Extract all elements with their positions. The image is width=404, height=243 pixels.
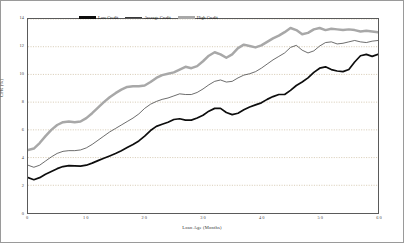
y-axis-tick-label: 12 <box>20 44 24 48</box>
y-axis-tick-label: 8 <box>22 100 24 104</box>
y-axis-tick-labels: 02468101214 <box>9 18 24 214</box>
x-axis-tick-label: 3 0 <box>200 216 206 220</box>
y-axis-tick-label: 2 <box>22 184 24 188</box>
legend-label-high-credit: High Credit <box>197 15 218 20</box>
y-axis-tick-label: 10 <box>20 72 24 76</box>
y-axis-tick-label: 6 <box>22 128 24 132</box>
y-axis-title: CPR (%) <box>0 79 4 97</box>
x-axis-tick-label: 4 0 <box>259 216 265 220</box>
legend-item-high-credit: High Credit <box>178 15 218 20</box>
legend-swatch-average-credit-icon <box>125 17 142 18</box>
chart-figure: CPR (%) 02468101214 Low Credit Average C… <box>0 0 404 243</box>
y-axis-tick-label: 14 <box>20 16 24 20</box>
x-axis-tick-label: 6 0 <box>376 216 382 220</box>
chart-legend: Low Credit Average Credit High Credit <box>79 15 218 20</box>
x-axis-tick-label: 0 <box>26 216 28 220</box>
y-axis-tick-label: 0 <box>22 212 24 216</box>
plot-area <box>27 18 379 214</box>
legend-swatch-high-credit-icon <box>178 16 195 19</box>
legend-item-average-credit: Average Credit <box>125 15 171 20</box>
x-axis-tick-label: 1 0 <box>83 216 89 220</box>
x-axis-tick-label: 5 0 <box>318 216 324 220</box>
series-lines <box>28 19 378 213</box>
x-axis-title: Loan Age (Months) <box>1 225 403 230</box>
legend-label-low-credit: Low Credit <box>98 15 118 20</box>
legend-swatch-low-credit-icon <box>79 16 96 18</box>
legend-label-average-credit: Average Credit <box>144 15 171 20</box>
x-axis-tick-label: 2 0 <box>142 216 148 220</box>
legend-item-low-credit: Low Credit <box>79 15 118 20</box>
y-axis-tick-label: 4 <box>22 156 24 160</box>
